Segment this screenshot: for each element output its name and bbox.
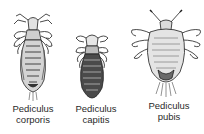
crab-louse-icon [128,8,204,98]
label-corporis: Pediculus corporis [4,103,62,125]
pediculus-capitis-illustration [70,32,114,100]
pediculus-pubis-illustration [128,8,204,98]
pediculus-corporis-illustration [8,10,58,102]
label-capitis: Pediculus capitis [67,103,125,125]
label-capitis-species: capitis [67,114,125,125]
label-pubis-genus: Pediculus [140,100,198,111]
label-pubis-species: pubis [140,111,198,122]
head-louse-icon [70,32,114,100]
body-louse-icon [8,10,58,102]
label-pubis: Pediculus pubis [140,100,198,122]
label-capitis-genus: Pediculus [67,103,125,114]
label-corporis-genus: Pediculus [4,103,62,114]
label-corporis-species: corporis [4,114,62,125]
